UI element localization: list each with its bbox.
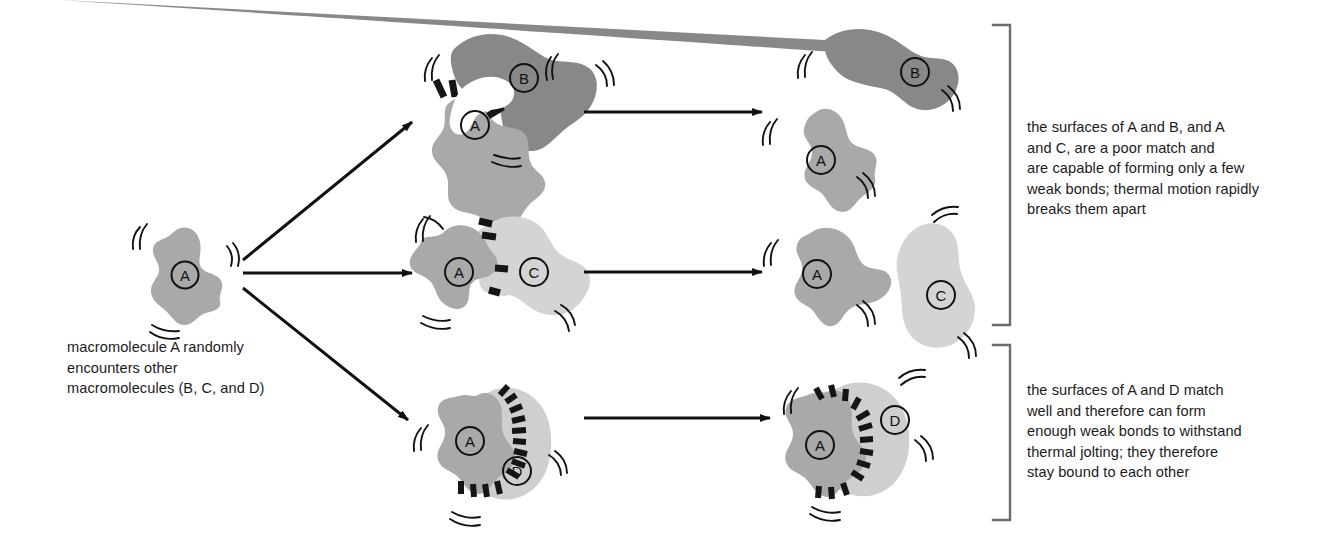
caption-good-match: the surfaces of A and D match well and t… xyxy=(1027,380,1327,483)
bracket-bottom xyxy=(993,345,1010,520)
molecule-a-start-group: A xyxy=(133,224,239,339)
bracket-top xyxy=(993,25,1010,325)
bond-ab-1 xyxy=(436,80,444,97)
bond-ad-7 xyxy=(514,451,527,454)
bond-ac-4 xyxy=(489,290,500,293)
bond-ad-bound-11 xyxy=(843,483,847,495)
bond-ad-bound-3 xyxy=(845,389,846,401)
bond-ad-bound-7 xyxy=(860,439,873,440)
complex-ab-group: B A xyxy=(425,34,614,229)
arrow-to-ab xyxy=(243,122,412,260)
molecule-c-complex-label: C xyxy=(529,264,540,281)
bond-ad-bound-8 xyxy=(860,451,873,453)
molecule-a-complex-ad-label: A xyxy=(465,433,475,450)
bond-ac-2 xyxy=(482,235,496,237)
diagram-canvas: A B A xyxy=(0,0,1336,545)
grouping-brackets xyxy=(993,25,1010,520)
bond-ad-bound-13 xyxy=(818,486,819,498)
molecule-a-complex-ab-label: A xyxy=(470,117,480,134)
caption-poor-match: the surfaces of A and B, and A and C, ar… xyxy=(1027,117,1327,220)
caption-macromolecule-a: macromolecule A randomly encounters othe… xyxy=(67,337,337,399)
bond-ad-10 xyxy=(497,481,500,494)
molecule-a-separated-ac-shape xyxy=(794,228,891,327)
result-arrows xyxy=(584,112,770,418)
bond-ac-1 xyxy=(479,221,492,224)
molecule-c-separated-shape xyxy=(897,223,975,348)
molecule-a-separated-ab-label: A xyxy=(816,152,826,169)
bond-ad-bound-9 xyxy=(857,462,870,466)
bond-ac-3 xyxy=(495,268,508,269)
complex-ad-group: A D xyxy=(414,386,567,526)
complex-ac-group: A C xyxy=(410,216,590,331)
bond-ad-12 xyxy=(473,484,474,497)
bond-ad-11 xyxy=(485,484,487,497)
bond-ad-bound-12 xyxy=(831,487,832,499)
molecule-a-separated-shape xyxy=(804,109,877,212)
bond-ad-4 xyxy=(512,418,525,421)
bound-ad-group: A D xyxy=(784,370,933,521)
molecule-b-complex-label: B xyxy=(519,70,529,87)
bond-ad-bound-2 xyxy=(831,385,834,397)
bond-ad-6 xyxy=(513,441,526,442)
bond-ab-2 xyxy=(452,80,455,97)
molecule-a-start-label: A xyxy=(180,267,190,284)
molecule-a-bound-label: A xyxy=(815,437,825,454)
bond-ad-bound-6 xyxy=(859,425,872,429)
bond-ad-5 xyxy=(512,430,526,431)
separated-ac-group: A C xyxy=(764,207,976,358)
molecule-a-complex-ac-label: A xyxy=(454,264,464,281)
molecule-d-complex-label: D xyxy=(512,463,523,480)
molecule-a-separated-ac-label: A xyxy=(812,266,822,283)
molecule-d-bound-label: D xyxy=(890,412,901,429)
molecule-b-separated-label: B xyxy=(910,64,920,81)
molecule-c-separated-label: C xyxy=(936,287,947,304)
